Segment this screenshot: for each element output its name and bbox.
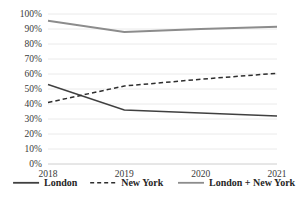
legend-label: London + New York bbox=[209, 177, 296, 188]
y-axis-tick-label: 40% bbox=[25, 99, 43, 109]
y-axis-tick-label: 100% bbox=[20, 9, 42, 19]
y-axis-tick-label: 50% bbox=[25, 84, 43, 94]
y-axis-tick-label: 60% bbox=[25, 69, 43, 79]
y-axis-tick-label: 80% bbox=[25, 39, 43, 49]
y-axis-tick-label: 20% bbox=[25, 129, 43, 139]
x-axis-tick-label: 2020 bbox=[191, 169, 210, 179]
y-axis-tick-label: 70% bbox=[25, 54, 43, 64]
y-axis-tick-label: 90% bbox=[25, 24, 43, 34]
legend-label: London bbox=[44, 177, 78, 188]
chart-legend: LondonNew YorkLondon + New York bbox=[13, 177, 296, 188]
line-chart: 0%10%20%30%40%50%60%70%80%90%100% 201820… bbox=[0, 0, 307, 201]
y-axis-tick-label: 30% bbox=[25, 114, 43, 124]
y-axis-tick-label: 10% bbox=[25, 144, 43, 154]
chart-canvas: 0%10%20%30%40%50%60%70%80%90%100% 201820… bbox=[0, 0, 307, 201]
y-axis-tick-label: 0% bbox=[29, 159, 42, 169]
legend-label: New York bbox=[121, 177, 164, 188]
